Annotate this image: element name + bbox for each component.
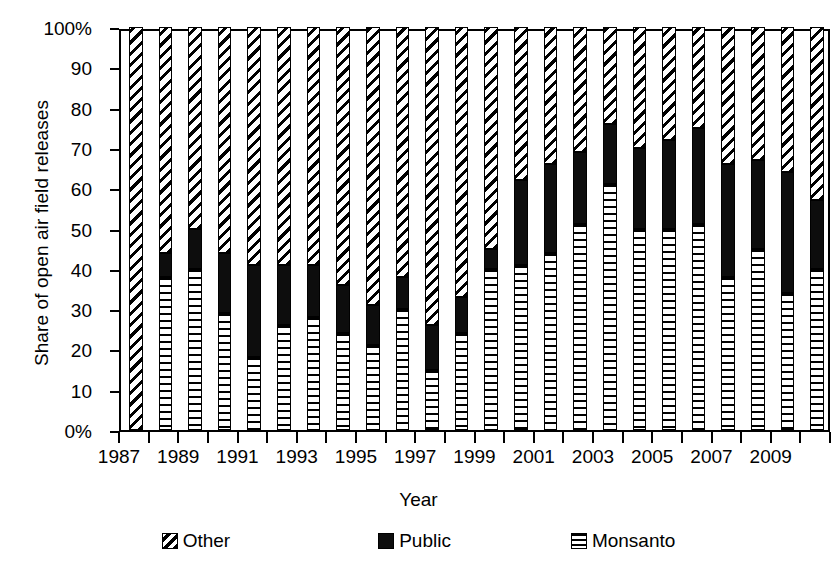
bar-1988[interactable] — [159, 27, 173, 430]
bar-1999[interactable] — [484, 27, 498, 430]
bar-segment-monsanto[interactable] — [662, 229, 676, 431]
bar-segment-other[interactable] — [662, 27, 676, 140]
bar-segment-other[interactable] — [810, 27, 824, 200]
bar-segment-monsanto[interactable] — [751, 249, 765, 430]
bar-2008[interactable] — [751, 27, 765, 430]
bar-segment-public[interactable] — [425, 325, 439, 369]
bar-1991[interactable] — [247, 27, 261, 430]
bar-segment-public[interactable] — [662, 140, 676, 229]
bar-segment-other[interactable] — [573, 27, 587, 152]
bar-segment-public[interactable] — [573, 152, 587, 225]
bar-segment-monsanto[interactable] — [721, 277, 735, 430]
bar-segment-other[interactable] — [603, 27, 617, 124]
bar-segment-public[interactable] — [721, 164, 735, 277]
bar-1998[interactable] — [455, 27, 469, 430]
bar-segment-monsanto[interactable] — [544, 253, 558, 430]
bar-segment-monsanto[interactable] — [307, 317, 321, 430]
bar-segment-monsanto[interactable] — [396, 309, 410, 430]
bar-segment-public[interactable] — [544, 164, 558, 253]
bar-2005[interactable] — [662, 27, 676, 430]
bar-1989[interactable] — [188, 27, 202, 430]
bar-segment-monsanto[interactable] — [218, 313, 232, 430]
bar-2001[interactable] — [544, 27, 558, 430]
bar-2006[interactable] — [692, 27, 706, 430]
bar-segment-monsanto[interactable] — [810, 269, 824, 430]
bar-segment-public[interactable] — [484, 249, 498, 269]
bar-segment-monsanto[interactable] — [514, 265, 528, 430]
bar-2009[interactable] — [781, 27, 795, 430]
bar-segment-other[interactable] — [721, 27, 735, 164]
bar-segment-other[interactable] — [544, 27, 558, 164]
bar-segment-public[interactable] — [751, 160, 765, 249]
bar-segment-monsanto[interactable] — [484, 269, 498, 430]
bar-segment-public[interactable] — [247, 265, 261, 358]
bar-segment-monsanto[interactable] — [247, 357, 261, 430]
bar-1996[interactable] — [396, 27, 410, 430]
bar-segment-monsanto[interactable] — [277, 325, 291, 430]
bar-segment-other[interactable] — [129, 27, 143, 430]
bar-1994[interactable] — [336, 27, 350, 430]
bar-2003[interactable] — [603, 27, 617, 430]
bar-segment-other[interactable] — [781, 27, 795, 172]
bar-segment-other[interactable] — [633, 27, 647, 148]
bar-segment-other[interactable] — [366, 27, 380, 305]
bar-segment-monsanto[interactable] — [781, 293, 795, 430]
legend-item-other[interactable]: Other — [162, 531, 231, 550]
legend-item-public[interactable]: Public — [378, 531, 451, 550]
bar-segment-public[interactable] — [366, 305, 380, 345]
bar-segment-public[interactable] — [633, 148, 647, 229]
bar-segment-monsanto[interactable] — [692, 224, 706, 430]
bar-segment-other[interactable] — [188, 27, 202, 229]
bar-2004[interactable] — [633, 27, 647, 430]
x-axis-tick — [622, 432, 624, 443]
bar-2010[interactable] — [810, 27, 824, 430]
bar-1995[interactable] — [366, 27, 380, 430]
bar-1993[interactable] — [307, 27, 321, 430]
bar-segment-other[interactable] — [336, 27, 350, 285]
bar-segment-public[interactable] — [188, 229, 202, 269]
bar-segment-public[interactable] — [218, 253, 232, 313]
bar-segment-monsanto[interactable] — [455, 333, 469, 430]
bar-segment-monsanto[interactable] — [159, 277, 173, 430]
bar-segment-monsanto[interactable] — [425, 370, 439, 430]
bar-segment-monsanto[interactable] — [366, 345, 380, 430]
bar-segment-public[interactable] — [396, 277, 410, 309]
bar-segment-public[interactable] — [692, 128, 706, 225]
bar-2000[interactable] — [514, 27, 528, 430]
bar-segment-public[interactable] — [277, 265, 291, 325]
bar-segment-other[interactable] — [692, 27, 706, 128]
bar-1990[interactable] — [218, 27, 232, 430]
bar-segment-public[interactable] — [159, 253, 173, 277]
bar-1997[interactable] — [425, 27, 439, 430]
bar-segment-public[interactable] — [810, 200, 824, 269]
bar-segment-other[interactable] — [396, 27, 410, 277]
bar-segment-other[interactable] — [218, 27, 232, 253]
bar-segment-other[interactable] — [425, 27, 439, 325]
bar-segment-other[interactable] — [484, 27, 498, 249]
legend-item-monsanto[interactable]: Monsanto — [571, 531, 675, 550]
bar-segment-monsanto[interactable] — [336, 333, 350, 430]
bar-segment-monsanto[interactable] — [633, 229, 647, 431]
bar-segment-other[interactable] — [277, 27, 291, 265]
bar-segment-monsanto[interactable] — [188, 269, 202, 430]
bar-1992[interactable] — [277, 27, 291, 430]
bar-segment-other[interactable] — [159, 27, 173, 253]
bar-segment-other[interactable] — [751, 27, 765, 160]
bar-segment-other[interactable] — [307, 27, 321, 265]
bar-2002[interactable] — [573, 27, 587, 430]
bar-segment-public[interactable] — [603, 124, 617, 184]
bar-segment-other[interactable] — [514, 27, 528, 180]
bar-segment-monsanto[interactable] — [603, 184, 617, 430]
x-axis-tick-label: 2005 — [631, 446, 673, 468]
bar-2007[interactable] — [721, 27, 735, 430]
y-axis-tick — [110, 28, 119, 30]
bar-segment-public[interactable] — [514, 180, 528, 265]
bar-segment-other[interactable] — [455, 27, 469, 297]
bar-segment-public[interactable] — [307, 265, 321, 317]
bar-1987[interactable] — [129, 27, 143, 430]
bar-segment-monsanto[interactable] — [573, 224, 587, 430]
bar-segment-other[interactable] — [247, 27, 261, 265]
bar-segment-public[interactable] — [781, 172, 795, 293]
bar-segment-public[interactable] — [455, 297, 469, 333]
bar-segment-public[interactable] — [336, 285, 350, 333]
